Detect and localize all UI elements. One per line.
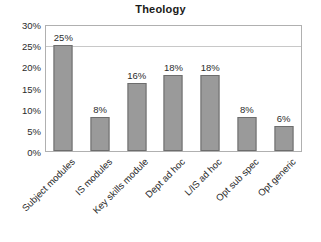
bar-slot: 6% xyxy=(265,25,302,151)
y-axis-tick-label: 5% xyxy=(0,125,41,136)
x-axis: Subject modulesIS modulesKey skills modu… xyxy=(45,152,302,242)
y-axis-tick-label: 25% xyxy=(0,41,41,52)
bar[interactable] xyxy=(164,75,183,151)
bar-slot: 25% xyxy=(45,25,82,151)
bar[interactable] xyxy=(201,75,220,151)
bar-slot: 18% xyxy=(192,25,229,151)
y-axis: 30%25%20%15%10%5%0% xyxy=(0,25,41,152)
bars-layer: 25%8%16%18%18%8%6% xyxy=(45,25,302,152)
bar-slot: 18% xyxy=(155,25,192,151)
x-axis-tick-label: Opt generic xyxy=(255,156,298,199)
y-axis-tick-label: 10% xyxy=(0,104,41,115)
y-axis-tick-label: 0% xyxy=(0,147,41,158)
bar-value-label: 18% xyxy=(201,62,220,73)
chart-title: Theology xyxy=(0,3,321,15)
bar-slot: 8% xyxy=(82,25,119,151)
bar-value-label: 8% xyxy=(93,104,107,115)
x-axis-tick-label: Subject modules xyxy=(20,156,77,213)
y-axis-tick-label: 15% xyxy=(0,83,41,94)
bar[interactable] xyxy=(54,45,73,151)
bar[interactable] xyxy=(91,117,110,151)
bar-value-label: 18% xyxy=(164,62,183,73)
bar-slot: 8% xyxy=(229,25,266,151)
bar[interactable] xyxy=(237,117,256,151)
bar-value-label: 8% xyxy=(240,104,254,115)
bar[interactable] xyxy=(274,126,293,151)
bar-value-label: 16% xyxy=(127,70,146,81)
bar[interactable] xyxy=(127,83,146,151)
bar-slot: 16% xyxy=(118,25,155,151)
bar-value-label: 25% xyxy=(54,32,73,43)
bar-chart: Theology 30%25%20%15%10%5%0% 25%8%16%18%… xyxy=(0,0,321,242)
y-axis-tick-label: 20% xyxy=(0,62,41,73)
y-axis-tick-label: 30% xyxy=(0,20,41,31)
bar-value-label: 6% xyxy=(277,113,291,124)
